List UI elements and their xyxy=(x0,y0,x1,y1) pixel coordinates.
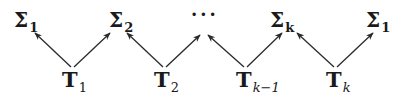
sigma-symbol: Σ xyxy=(366,8,380,32)
sigma-symbol: Σ xyxy=(14,8,28,32)
arrow-t2-to-sigma2 xyxy=(127,33,163,67)
node-sigma-k: Σk xyxy=(270,10,294,30)
arrow-tk-to-sigma1 xyxy=(337,33,373,67)
ellipsis-symbol: ··· xyxy=(191,4,219,25)
t-symbol: T xyxy=(236,67,252,92)
node-ellipsis: ··· xyxy=(191,6,219,24)
subscript: 1 xyxy=(29,20,38,35)
node-t-1: T1 xyxy=(62,69,87,90)
node-sigma-1-left: Σ1 xyxy=(14,10,38,30)
subscript: 2 xyxy=(124,20,133,35)
sigma-symbol: Σ xyxy=(109,8,123,32)
node-t-2: T2 xyxy=(154,69,179,90)
arrow-t1-to-sigma2 xyxy=(74,33,110,67)
subscript: k−1 xyxy=(253,80,280,95)
subscript: 1 xyxy=(79,80,87,95)
t-symbol: T xyxy=(154,67,170,92)
diagram-canvas: Σ1 Σ2 ··· Σk Σ1 T1 T2 Tk−1 Tk xyxy=(0,0,408,98)
t-symbol: T xyxy=(62,67,78,92)
arrow-t2-to-ellipsis xyxy=(166,35,200,67)
arrow-t1-to-sigma1 xyxy=(35,33,71,67)
sigma-symbol: Σ xyxy=(270,8,284,32)
arrow-tk-to-sigmak xyxy=(297,33,334,67)
subscript: k xyxy=(343,80,351,95)
arrow-tk1-to-ellipsis xyxy=(208,35,244,67)
node-sigma-1-right: Σ1 xyxy=(366,10,390,30)
subscript: k xyxy=(285,20,294,35)
arrow-tk1-to-sigmak xyxy=(247,33,282,67)
subscript: 1 xyxy=(381,20,390,35)
node-sigma-2: Σ2 xyxy=(109,10,133,30)
node-t-k-minus-1: Tk−1 xyxy=(236,69,280,90)
subscript: 2 xyxy=(171,80,179,95)
t-symbol: T xyxy=(326,67,342,92)
node-t-k: Tk xyxy=(326,69,351,90)
